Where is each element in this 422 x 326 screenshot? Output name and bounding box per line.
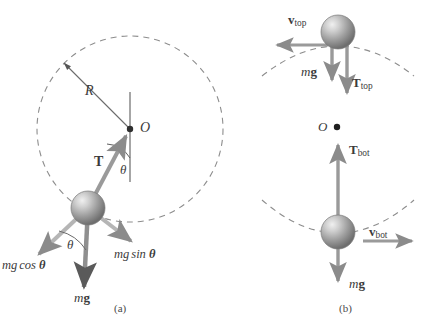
center-point-o bbox=[127, 126, 133, 132]
center-point-o-panel-b bbox=[334, 124, 340, 130]
panel-b-bottom-group bbox=[262, 124, 414, 281]
v-bot-label-sub: bot bbox=[376, 230, 388, 240]
mg-top-label-m: m bbox=[301, 64, 310, 79]
radius-label: R bbox=[85, 84, 94, 98]
mg-bot-label-g: g bbox=[358, 276, 365, 291]
mg-cos-theta-trig: cos bbox=[19, 258, 36, 272]
v-top-label-sub: top bbox=[295, 18, 307, 28]
center-label-b: O bbox=[318, 120, 327, 133]
mg-bot-label-m: m bbox=[349, 276, 358, 291]
caption-b: (b) bbox=[339, 303, 352, 314]
center-label-a: O bbox=[140, 121, 150, 135]
panel-b-top-group bbox=[262, 15, 414, 93]
weight-label-a-g: g bbox=[83, 290, 90, 305]
radius-arrow bbox=[64, 63, 130, 129]
t-bot-label-sub: bot bbox=[358, 148, 370, 158]
mg-sin-theta-trig: sin bbox=[131, 247, 146, 261]
mg-sin-theta-label: mgsinθ bbox=[114, 248, 155, 261]
weight-label-a-m: m bbox=[74, 290, 83, 305]
top-arc-dashed bbox=[262, 46, 414, 76]
mg-sin-theta-angle: θ bbox=[149, 247, 156, 261]
mg-cos-theta-angle: θ bbox=[39, 258, 46, 272]
v-bot-label-main: v bbox=[369, 224, 376, 239]
caption-a: (a) bbox=[114, 303, 126, 314]
t-bot-label: Tbot bbox=[349, 143, 370, 156]
t-top-label: Ttop bbox=[352, 76, 373, 89]
v-bot-label: vbot bbox=[369, 225, 387, 238]
mg-cos-theta-prefix: mg bbox=[2, 258, 17, 272]
t-bot-label-main: T bbox=[349, 142, 358, 157]
angle-label-ball: θ bbox=[67, 238, 73, 251]
physics-figure: R O T θ θ mgsinθ mgcosθ mg (a) vtop mg T… bbox=[0, 0, 422, 326]
mg-sin-theta-prefix: mg bbox=[114, 247, 129, 261]
mg-top-label: mg bbox=[301, 65, 317, 78]
weight-label-a: mg bbox=[74, 291, 90, 304]
v-top-label-main: v bbox=[288, 12, 295, 27]
t-top-label-main: T bbox=[352, 75, 361, 90]
v-top-label: vtop bbox=[288, 13, 306, 26]
angle-label-center: θ bbox=[120, 163, 126, 176]
tension-label-a: T bbox=[94, 155, 103, 169]
mg-bot-label: mg bbox=[349, 277, 365, 290]
t-top-label-sub: top bbox=[361, 81, 373, 91]
mg-top-label-g: g bbox=[310, 64, 317, 79]
mg-cos-theta-label: mgcosθ bbox=[2, 259, 45, 272]
